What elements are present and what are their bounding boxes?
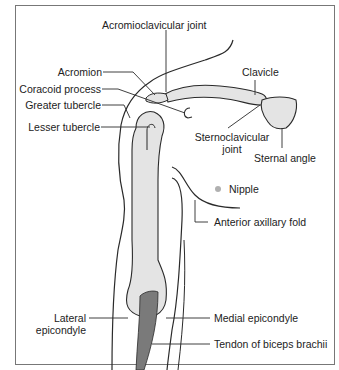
label-medial-epicondyle: Medial epicondyle (214, 312, 298, 324)
clavicle-bone (165, 85, 267, 105)
label-clavicle: Clavicle (242, 66, 279, 78)
label-nipple: Nipple (229, 183, 259, 195)
label-acromioclavicular-joint: Acromioclavicular joint (102, 19, 206, 31)
acromion-bone (146, 93, 168, 103)
label-greater-tubercle: Greater tubercle (10, 99, 101, 111)
label-tendon-of-biceps-brachii: Tendon of biceps brachii (214, 338, 327, 350)
label-lateral-epicondyle-line2: epicondyle (20, 324, 86, 336)
label-sternoclavicular-joint-line1: Sternoclavicular (182, 131, 282, 143)
label-lesser-tubercle: Lesser tubercle (10, 121, 100, 133)
label-lateral-epicondyle-line1: Lateral (20, 312, 86, 324)
arm-medial-outline (167, 178, 182, 370)
forearm-outline (178, 240, 185, 370)
humerus-bone (127, 112, 167, 318)
label-anterior-axillary-fold: Anterior axillary fold (214, 216, 306, 228)
coracoid-bone (184, 108, 192, 118)
label-acromion: Acromion (40, 66, 102, 78)
label-coracoid-process: Coracoid process (10, 83, 101, 95)
manubrium-bone (261, 97, 296, 129)
label-sternal-angle: Sternal angle (254, 152, 316, 164)
nipple-dot (215, 186, 221, 192)
